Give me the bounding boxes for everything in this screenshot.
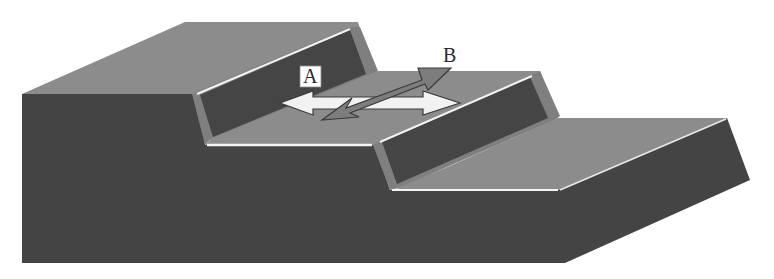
label-a: A [303,65,318,87]
terrain-block-diagram: A B [0,0,774,279]
label-b: B [443,44,456,66]
